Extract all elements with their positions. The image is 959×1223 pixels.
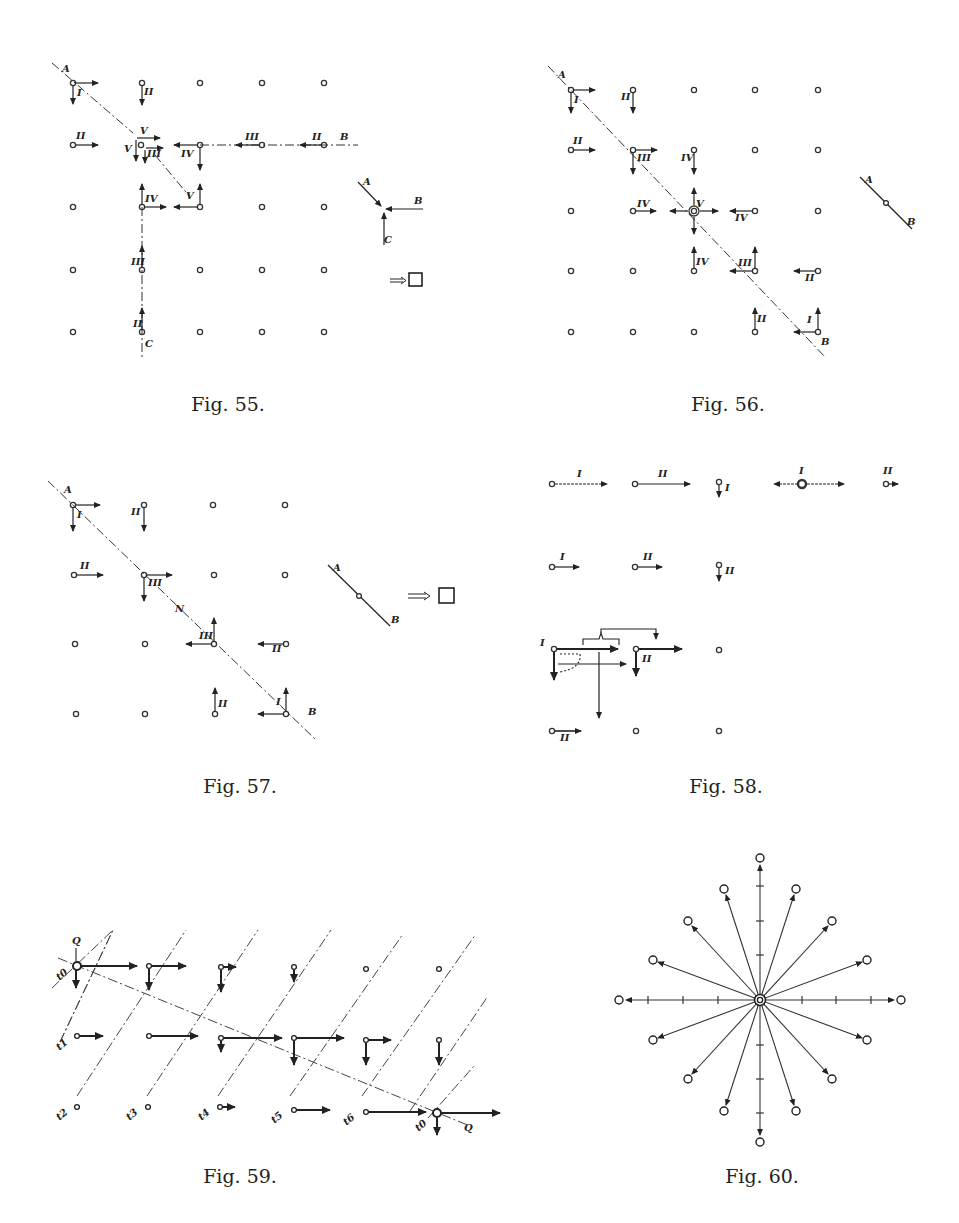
svg-text:III: III [636,152,651,163]
svg-text:III: III [198,630,213,641]
svg-text:t5: t5 [269,1109,285,1125]
svg-text:II: II [641,653,652,664]
svg-text:t6: t6 [341,1111,357,1127]
svg-text:II: II [311,131,322,142]
figure-58: I II I I II I II II I II II Fig. 58. [480,440,959,820]
svg-text:II: II [559,732,570,743]
svg-text:B: B [906,216,915,227]
svg-text:II: II [804,272,815,283]
fig55-caption: Fig. 55. [191,393,265,415]
svg-text:IV: IV [680,152,695,163]
svg-text:II: II [882,465,893,476]
svg-text:I: I [573,94,579,105]
figure-57: A I II II III N III II II I B A B Fig. 5… [0,440,480,820]
svg-text:V: V [124,143,133,154]
svg-text:IV: IV [734,212,749,223]
svg-text:III: III [147,577,162,588]
svg-text:III: III [737,257,752,268]
fig56-diagram: A I II II III IV IV V IV IV III II II I … [480,0,959,420]
svg-text:II: II [724,565,735,576]
svg-text:II: II [620,91,631,102]
figure-59: Q t0 t1 t2 t3 t4 t5 t6 t0 Q Fig. 59. [0,820,540,1223]
svg-text:I: I [76,509,82,520]
fig60-caption: Fig. 60. [725,1165,799,1187]
svg-text:B: B [390,614,399,625]
svg-text:t0: t0 [54,966,70,982]
svg-text:I: I [576,468,582,479]
figure-56: A I II II III IV IV V IV IV III II II I … [480,0,959,420]
svg-text:t3: t3 [124,1106,140,1122]
fig58-caption: Fig. 58. [689,775,763,797]
implies-square-icon [408,588,454,603]
svg-text:A: A [332,562,341,573]
fig59-labels: Q t0 t1 t2 t3 t4 t5 t6 t0 Q [54,935,473,1133]
svg-text:N: N [174,603,185,614]
svg-text:V: V [140,125,149,136]
fig59-caption: Fig. 59. [203,1165,277,1187]
svg-text:A: A [63,484,72,495]
fig57-labels: A I II II III N III II II I B A B [63,484,399,717]
fig58-labels: I II I I II I II II I II II [539,465,893,743]
svg-text:C: C [145,338,153,349]
svg-text:t2: t2 [54,1106,70,1122]
svg-text:t0: t0 [413,1117,429,1133]
svg-text:II: II [79,560,90,571]
svg-text:I: I [559,551,565,562]
svg-text:B: B [820,336,829,347]
fig57-diagram: A I II II III N III II II I B A B [0,440,480,820]
svg-text:A: A [61,63,70,74]
figure-60: Fig. 60. [540,820,959,1223]
svg-text:IV: IV [695,256,710,267]
svg-text:t1: t1 [54,1036,70,1052]
svg-text:II: II [657,468,668,479]
svg-text:t4: t4 [196,1106,212,1122]
implies-square-icon [390,273,422,286]
fig59-diagram: Q t0 t1 t2 t3 t4 t5 t6 t0 Q [0,820,540,1223]
svg-text:II: II [756,313,767,324]
svg-text:IV: IV [144,193,159,204]
svg-text:V: V [186,190,195,201]
svg-text:IV: IV [180,148,195,159]
svg-text:C: C [384,234,392,245]
svg-text:Q: Q [464,1122,473,1133]
svg-text:I: I [275,696,281,707]
svg-text:II: II [132,318,143,329]
fig56-caption: Fig. 56. [691,393,765,415]
svg-text:I: I [76,87,82,98]
svg-text:I: I [539,637,545,648]
fig60-diagram [540,820,959,1223]
svg-text:II: II [143,86,154,97]
svg-text:B: B [339,131,348,142]
svg-text:B: B [413,195,422,206]
svg-text:V: V [696,198,705,209]
svg-text:A: A [864,174,873,185]
svg-text:II: II [130,506,141,517]
svg-text:I: I [806,314,812,325]
svg-text:III: III [146,148,161,159]
fig55-labels: A I II II V V III IV III II B IV V III I… [61,63,422,349]
svg-text:II: II [642,551,653,562]
svg-text:B: B [307,706,316,717]
svg-text:II: II [572,135,583,146]
fig57-caption: Fig. 57. [203,775,277,797]
svg-text:II: II [217,698,228,709]
svg-text:II: II [271,643,282,654]
figure-55: A I II II V V III IV III II B IV V III I… [0,0,480,420]
fig55-diagram: A I II II V V III IV III II B IV V III I… [0,0,480,420]
fig56-labels: A I II II III IV IV V IV IV III II II I … [557,69,915,347]
svg-text:III: III [244,131,259,142]
svg-text:I: I [724,482,730,493]
fig58-diagram: I II I I II I II II I II II [480,440,959,820]
svg-text:A: A [362,176,371,187]
svg-text:I: I [798,465,804,476]
svg-text:IV: IV [636,198,651,209]
svg-text:II: II [75,130,86,141]
svg-text:A: A [557,69,566,80]
svg-text:III: III [130,256,145,267]
svg-text:Q: Q [72,935,81,946]
